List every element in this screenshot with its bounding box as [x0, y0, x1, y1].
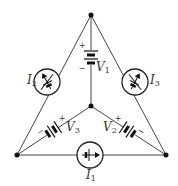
- node-bottom-left: [15, 153, 20, 158]
- i3-label: I3: [149, 73, 160, 88]
- v3-label: V3: [66, 120, 80, 135]
- circuit-diagram: + − V1 I2 I3 + − V3: [0, 0, 178, 186]
- v1-label: V1: [96, 60, 110, 75]
- v2-plus-sign: +: [115, 114, 122, 123]
- node-center: [89, 104, 94, 109]
- voltage-source-v3: [42, 120, 63, 141]
- voltage-source-v2: [119, 120, 140, 141]
- current-source-i3: [122, 69, 148, 95]
- node-top: [89, 13, 94, 18]
- v3-plus-sign: +: [59, 114, 66, 123]
- voltage-source-v1: + − V1: [79, 41, 110, 75]
- current-source-i1: [77, 142, 103, 168]
- node-bottom-right: [164, 153, 169, 158]
- v1-minus-sign: −: [79, 64, 86, 73]
- v1-plus-sign: +: [79, 41, 86, 50]
- current-source-i2: [34, 69, 60, 95]
- i1-label: I1: [85, 168, 96, 183]
